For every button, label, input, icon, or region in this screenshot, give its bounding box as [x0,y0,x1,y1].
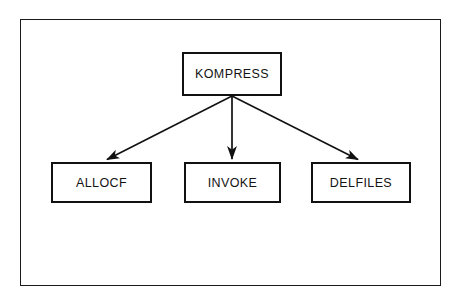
node-delfiles-label: DELFILES [330,176,392,190]
node-allocf-label: ALLOCF [76,176,127,190]
node-delfiles[interactable]: DELFILES [311,162,411,203]
edge-kompress-allocf [107,96,232,160]
node-invoke[interactable]: INVOKE [184,162,281,203]
diagram-canvas: KOMPRESS ALLOCF INVOKE DELFILES [0,0,458,304]
edge-kompress-delfiles [232,96,358,160]
diagram-edges [0,0,458,304]
node-kompress[interactable]: KOMPRESS [182,52,282,96]
node-allocf[interactable]: ALLOCF [51,162,152,203]
node-kompress-label: KOMPRESS [195,67,269,81]
node-invoke-label: INVOKE [208,176,258,190]
